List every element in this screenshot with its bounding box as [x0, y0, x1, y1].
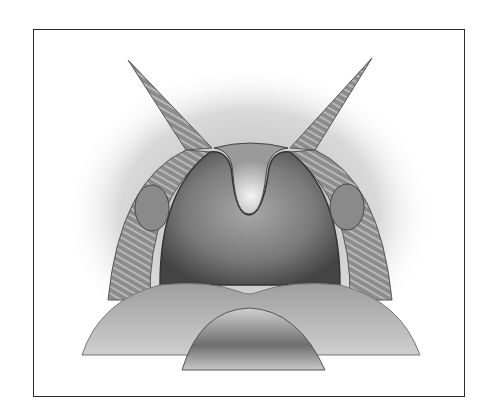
palatine-tonsil-right — [330, 184, 364, 230]
oral-cavity-illustration — [0, 0, 489, 416]
palatine-tonsil-left — [135, 185, 169, 231]
